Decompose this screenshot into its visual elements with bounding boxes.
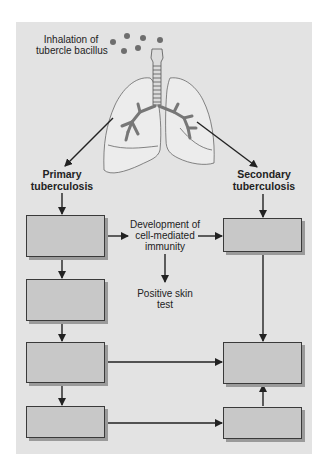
primary-tuberculosis-label: Primary tuberculosis [22, 169, 102, 192]
secondary-box-1 [223, 218, 302, 252]
secondary-tuberculosis-label: Secondary tuberculosis [224, 169, 304, 192]
primary-box-3 [26, 342, 105, 383]
immunity-label: Development of cell-mediated immunity [125, 219, 205, 252]
inhalation-label: Inhalation of tubercle bacillus [36, 34, 106, 56]
skin-test-label: Positive skin test [125, 288, 205, 310]
trachea-icon [151, 49, 163, 105]
primary-box-4 [26, 406, 105, 438]
primary-box-1 [26, 215, 105, 257]
secondary-box-3 [223, 407, 302, 439]
primary-box-2 [26, 279, 105, 321]
secondary-box-2 [223, 342, 302, 384]
